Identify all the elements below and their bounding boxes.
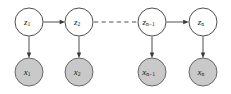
observed-node-x1[interactable]: x1 — [15, 58, 43, 86]
latent-node-z1[interactable]: z1 — [15, 8, 43, 36]
diagram-svg: z1 z2 zn−1 zn x1 x2 xn−1 xn — [0, 0, 231, 94]
edge-zn-1-zn — [167, 20, 189, 24]
graphical-model-diagram: z1 z2 zn−1 zn x1 x2 xn−1 xn — [0, 0, 231, 94]
edge-zn-xn — [201, 37, 205, 59]
observed-node-x2[interactable]: x2 — [65, 58, 93, 86]
observed-node-xn[interactable]: xn — [189, 58, 217, 86]
latent-node-zn-1[interactable]: zn−1 — [138, 8, 166, 36]
arrowhead-z1-z2 — [60, 20, 66, 24]
arrowhead-zn-1-zn — [183, 20, 189, 24]
observed-node-xn-1[interactable]: xn−1 — [138, 58, 166, 86]
arrowhead-zn-1-xn-1 — [150, 53, 154, 59]
edge-z1-z2 — [44, 20, 66, 24]
arrowhead-zn-xn — [201, 53, 205, 59]
edge-z1-x1 — [27, 37, 31, 59]
latent-node-z2[interactable]: z2 — [65, 8, 93, 36]
edge-zn-1-xn-1 — [150, 37, 154, 59]
arrowhead-z2-x2 — [77, 53, 81, 59]
edge-z2-x2 — [77, 37, 81, 59]
latent-node-zn[interactable]: zn — [189, 8, 217, 36]
arrowhead-z1-x1 — [27, 53, 31, 59]
